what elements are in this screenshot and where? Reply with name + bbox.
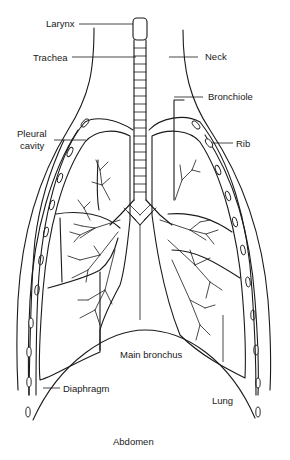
- respiratory-diagram: [0, 0, 290, 460]
- label-neck: Neck: [205, 51, 227, 62]
- trachea: [110, 18, 172, 320]
- label-larynx: Larynx: [46, 18, 75, 29]
- right-lung: [152, 100, 245, 378]
- label-rib: Rib: [236, 138, 250, 149]
- label-pleural-cavity-1: Pleural: [17, 128, 47, 139]
- label-main-bronchus: Main bronchus: [120, 349, 182, 360]
- diaphragm-curve: [33, 330, 255, 420]
- label-lung: Lung: [212, 395, 233, 406]
- label-diaphragm: Diaphragm: [63, 383, 109, 394]
- label-bronchiole: Bronchiole: [208, 91, 253, 102]
- bronchial-tree-right: [160, 160, 222, 340]
- left-lung: [39, 131, 130, 380]
- label-abdomen: Abdomen: [113, 436, 154, 447]
- leader-lines: [43, 24, 233, 388]
- label-pleural-cavity-2: cavity: [20, 140, 44, 151]
- label-trachea: Trachea: [33, 52, 68, 63]
